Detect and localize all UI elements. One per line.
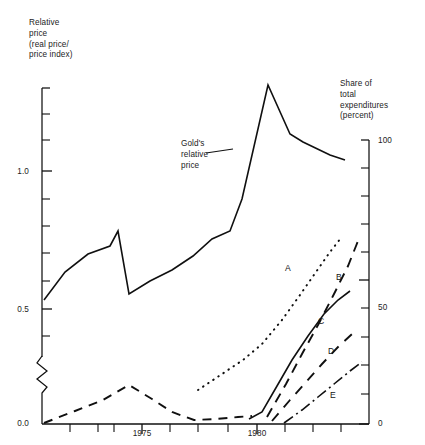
- series-label-c: C: [318, 316, 324, 326]
- left-tick-label-1-0: 1.0: [3, 167, 29, 176]
- series-label-a: A: [285, 263, 291, 273]
- x-tick-label-1980: 1980: [237, 429, 277, 438]
- series-a-curve: [198, 238, 341, 390]
- x-tick-label-1975: 1975: [122, 429, 162, 438]
- series-d-curve: [272, 334, 352, 421]
- series-label-b: B: [336, 272, 342, 282]
- left-tick-label-0-0: 0.0: [3, 419, 29, 428]
- left-axis-group: [37, 88, 52, 424]
- right-axis-title: Share of total expenditures (percent): [340, 79, 388, 122]
- right-tick-label-50: 50: [378, 303, 406, 312]
- series-label-d: D: [328, 346, 334, 356]
- x-axis-group: [42, 424, 369, 434]
- gold-relative-price-annotation: Gold's relative price: [181, 138, 208, 172]
- gold-relative-price-curve: [44, 85, 345, 300]
- right-tick-label-100: 100: [378, 136, 406, 145]
- series-b-curve: [267, 236, 360, 417]
- chart-figure: Relative price (real price/ price index)…: [0, 0, 425, 445]
- right-axis-group: [359, 140, 369, 424]
- left-tick-label-0-5: 0.5: [3, 305, 29, 314]
- left-axis-break-zigzag: [37, 356, 47, 424]
- early-dashed-share-curve: [44, 385, 252, 423]
- right-tick-label-0: 0: [378, 419, 406, 428]
- left-axis-title: Relative price (real price/ price index): [29, 18, 73, 61]
- series-label-e: E: [330, 390, 336, 400]
- chart-canvas: [0, 0, 425, 445]
- gold-annotation-leader-line: [206, 149, 233, 153]
